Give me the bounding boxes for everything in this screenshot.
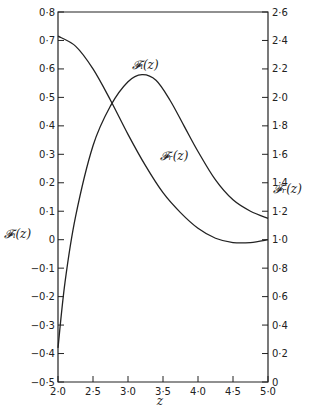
left-tick-label: 0·4 [39,120,55,131]
y-axis-label-right: 𝓕ᵣ(z) [273,182,302,196]
left-tick-label: 0·7 [39,35,55,46]
curve-fi [58,75,268,348]
left-tick-label: 0·6 [39,63,55,74]
right-tick-label: 1·6 [272,149,288,160]
right-axis-ticks: 2·62·42·22·01·81·61·41·21·00·80·60·40·20 [262,7,288,388]
curve-fr [58,36,268,243]
curve-label-fr: 𝓕ᵣ(z) [160,149,189,163]
right-tick-label: 1·8 [272,120,288,131]
x-tick-label: 4·5 [225,386,241,397]
left-tick-label: 0·5 [39,92,55,103]
right-tick-label: 0·6 [272,291,288,302]
curve-label-fi: 𝓕ᵢ(z) [132,58,159,72]
right-tick-label: 2·0 [272,92,288,103]
x-tick-label: 3·0 [120,386,136,397]
plot-frame [58,12,268,382]
x-axis-label: z [156,394,164,408]
left-tick-label: −0·4 [31,348,55,359]
chart: 0·80·70·60·50·40·30·20·10−0·1−0·2−0·3−0·… [0,0,316,411]
left-tick-label: 0 [49,234,55,245]
x-tick-label: 4·0 [190,386,206,397]
x-tick-label: 5·0 [260,386,276,397]
left-tick-label: −0·3 [31,320,55,331]
x-tick-label: 2·0 [50,386,66,397]
left-tick-label: 0·8 [39,7,55,18]
right-tick-label: 2·2 [272,63,288,74]
x-tick-label: 2·5 [85,386,101,397]
right-tick-label: 2·4 [272,35,288,46]
left-tick-label: 0·3 [39,149,55,160]
y-axis-label-left: 𝓕ᵢ(z) [4,227,31,241]
left-tick-label: 0·1 [39,206,55,217]
right-tick-label: 0·8 [272,263,288,274]
left-tick-label: −0·2 [31,291,55,302]
left-tick-label: 0·2 [39,177,55,188]
left-axis-ticks: 0·80·70·60·50·40·30·20·10−0·1−0·2−0·3−0·… [31,7,64,388]
left-tick-label: −0·1 [31,263,55,274]
right-tick-label: 1·0 [272,234,288,245]
right-tick-label: 2·6 [272,7,288,18]
right-tick-label: 0·4 [272,320,288,331]
right-tick-label: 0·2 [272,348,288,359]
right-tick-label: 1·2 [272,206,288,217]
